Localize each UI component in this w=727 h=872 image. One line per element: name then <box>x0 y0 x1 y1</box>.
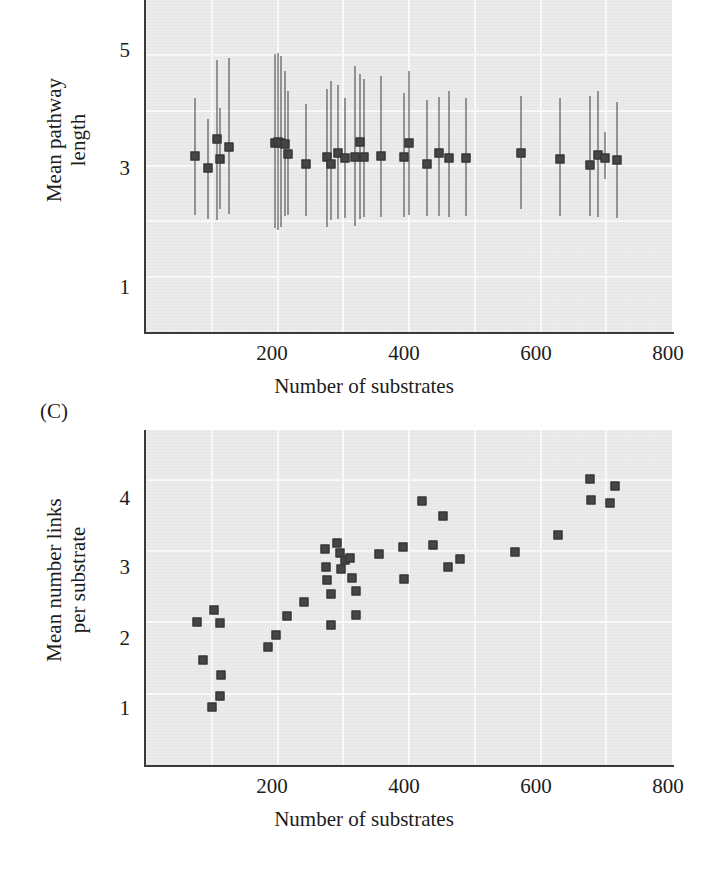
data-point-marker <box>321 545 330 554</box>
data-point-marker <box>351 587 360 596</box>
data-point-marker <box>216 155 225 164</box>
data-point-marker <box>553 530 562 539</box>
data-point-marker <box>322 575 331 584</box>
data-point-marker <box>445 154 454 163</box>
panel-c: (C) 4 3 2 1 200 400 600 800 Number of su… <box>0 395 727 872</box>
data-point-marker <box>586 475 595 484</box>
error-bar <box>228 58 229 213</box>
data-point-marker <box>462 154 471 163</box>
data-point-marker <box>224 142 233 151</box>
data-point-marker <box>216 691 225 700</box>
error-bar <box>330 81 331 220</box>
error-bar <box>427 100 428 216</box>
data-point-marker <box>418 497 427 506</box>
panel-c-y-axis-title-line1: Mean number links <box>42 450 66 710</box>
panel-b-ytick-1: 1 <box>100 277 130 298</box>
data-point-marker <box>204 164 213 173</box>
data-point-marker <box>443 562 452 571</box>
gridline-horizontal <box>146 54 672 56</box>
gridline-horizontal <box>146 276 672 278</box>
data-point-marker <box>301 159 310 168</box>
gridline-horizontal <box>146 693 672 695</box>
data-point-marker <box>282 612 291 621</box>
panel-b-ytick-5: 5 <box>100 40 130 61</box>
data-point-marker <box>377 152 386 161</box>
data-point-marker <box>199 656 208 665</box>
data-point-marker <box>208 703 217 712</box>
data-point-marker <box>587 495 596 504</box>
data-point-marker <box>332 538 341 547</box>
data-point-marker <box>193 618 202 627</box>
data-point-marker <box>322 562 331 571</box>
data-point-marker <box>510 547 519 556</box>
panel-b-plot-area <box>146 0 672 332</box>
panel-c-y-axis-title-line2: per substrate <box>66 450 90 710</box>
data-point-marker <box>336 564 345 573</box>
error-bar <box>363 79 364 217</box>
data-point-marker <box>435 148 444 157</box>
data-point-marker <box>405 138 414 147</box>
panel-b: 5 3 1 200 400 600 800 Number of substrat… <box>0 0 727 400</box>
figure-root: 5 3 1 200 400 600 800 Number of substrat… <box>0 0 727 872</box>
panel-c-label: (C) <box>40 401 68 422</box>
data-point-marker <box>359 153 368 162</box>
panel-b-xtick-400: 400 <box>384 343 424 364</box>
error-bar <box>359 74 360 219</box>
data-point-marker <box>327 621 336 630</box>
data-point-marker <box>600 154 609 163</box>
data-point-marker <box>612 156 621 165</box>
error-bar <box>589 96 590 216</box>
data-point-marker <box>341 154 350 163</box>
panel-b-y-axis-title-line1: Mean pathway <box>42 30 66 250</box>
panel-b-xtick-200: 200 <box>252 343 292 364</box>
data-point-marker <box>399 574 408 583</box>
panel-c-x-axis <box>144 765 674 767</box>
data-point-marker <box>272 630 281 639</box>
data-point-marker <box>439 512 448 521</box>
data-point-marker <box>606 498 615 507</box>
panel-b-xtick-800: 800 <box>648 343 688 364</box>
data-point-marker <box>516 148 525 157</box>
data-point-marker <box>326 159 335 168</box>
data-point-marker <box>399 542 408 551</box>
gridline-horizontal <box>146 621 672 623</box>
panel-c-xtick-200: 200 <box>252 776 292 797</box>
panel-b-ytick-3: 3 <box>100 158 130 179</box>
panel-c-ytick-4: 4 <box>100 488 130 509</box>
data-point-marker <box>284 149 293 158</box>
panel-c-ytick-3: 3 <box>100 557 130 578</box>
panel-c-x-axis-title: Number of substrates <box>259 807 469 831</box>
data-point-marker <box>216 671 225 680</box>
data-point-marker <box>611 481 620 490</box>
panel-b-xtick-600: 600 <box>516 343 556 364</box>
panel-c-xtick-600: 600 <box>516 776 556 797</box>
data-point-marker <box>429 541 438 550</box>
gridline-horizontal <box>146 550 672 552</box>
error-bar <box>381 76 382 217</box>
panel-b-x-axis <box>144 332 674 334</box>
panel-c-xtick-800: 800 <box>648 776 688 797</box>
data-point-marker <box>209 605 218 614</box>
panel-c-y-axis-title: Mean number links per substrate <box>42 450 90 710</box>
data-point-marker <box>423 159 432 168</box>
data-point-marker <box>348 574 357 583</box>
data-point-marker <box>190 152 199 161</box>
data-point-marker <box>352 611 361 620</box>
panel-c-plot-area <box>146 430 672 765</box>
data-point-marker <box>399 153 408 162</box>
panel-b-y-axis-title-line2: length <box>66 30 90 250</box>
panel-c-xtick-400: 400 <box>384 776 424 797</box>
data-point-marker <box>585 160 594 169</box>
data-point-marker <box>326 589 335 598</box>
data-point-marker <box>346 554 355 563</box>
data-point-marker <box>299 597 308 606</box>
data-point-marker <box>555 155 564 164</box>
panel-b-y-axis-title: Mean pathway length <box>42 30 90 250</box>
data-point-marker <box>263 642 272 651</box>
data-point-marker <box>215 619 224 628</box>
gridline-horizontal <box>146 220 672 222</box>
panel-b-y-axis <box>144 0 146 334</box>
data-point-marker <box>456 555 465 564</box>
panel-c-y-axis <box>144 430 146 767</box>
data-point-marker <box>375 550 384 559</box>
